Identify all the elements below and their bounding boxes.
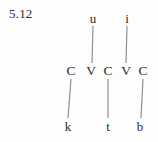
root-node-t: t [106, 120, 110, 133]
association-line-c1-to-k [68, 79, 71, 118]
skeleton-node-c3: C [138, 64, 147, 78]
vowel-node-i: i [125, 12, 129, 25]
skeleton-node-c1: C [66, 64, 75, 78]
association-line-c3-to-b [141, 79, 143, 118]
skeleton-node-c2: C [103, 64, 112, 78]
association-line-u-to-v1 [92, 26, 93, 63]
root-node-b: b [137, 120, 144, 133]
vowel-node-u: u [90, 12, 97, 25]
root-node-k: k [65, 120, 72, 133]
example-number: 5.12 [9, 6, 33, 22]
skeleton-node-v2: V [121, 64, 131, 78]
skeleton-node-v1: V [86, 64, 96, 78]
autosegmental-diagram: 5.12 u i C V C V C k t b [0, 0, 158, 142]
association-line-i-to-v2 [126, 26, 127, 63]
